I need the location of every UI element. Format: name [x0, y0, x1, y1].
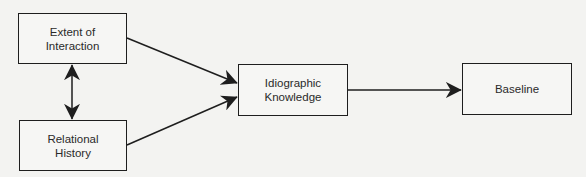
node-baseline: Baseline — [462, 63, 572, 115]
node-label: Idiographic Knowledge — [265, 76, 322, 104]
node-label: Baseline — [495, 82, 539, 96]
node-label: Extent of Interaction — [46, 25, 100, 53]
edge-extent-idiographic — [127, 38, 237, 83]
edge-relational-idiographic — [127, 97, 237, 145]
node-extent-of-interaction: Extent of Interaction — [18, 13, 127, 64]
node-relational-history: Relational History — [19, 120, 127, 171]
node-label: Relational History — [47, 132, 98, 160]
node-idiographic-knowledge: Idiographic Knowledge — [238, 64, 348, 116]
